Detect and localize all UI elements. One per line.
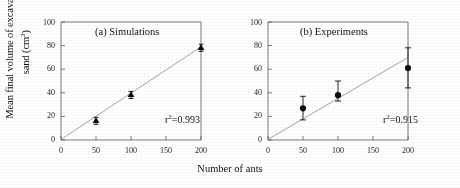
panel-b-error-bars (300, 48, 411, 120)
panel-b-y-ticks (268, 22, 272, 140)
panel-b-plot (0, 0, 460, 188)
figure-root: Mean final volume of excavated sand (cm3… (0, 0, 460, 188)
panel-b-x-ticks (268, 136, 408, 140)
